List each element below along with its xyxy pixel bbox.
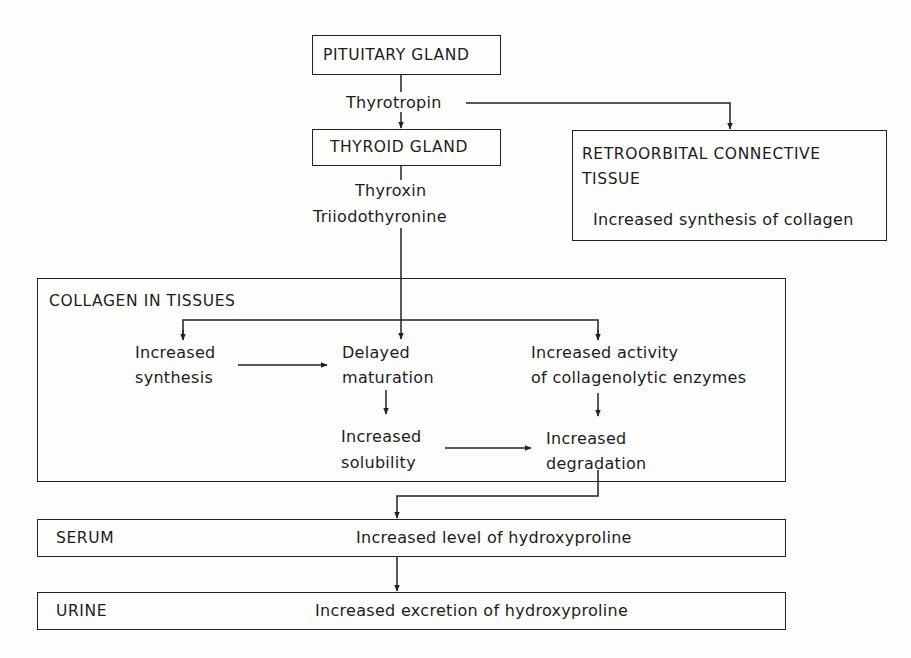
increased-degradation-line2: degradation (546, 454, 646, 474)
serum-box: SERUM Increased level of hydroxyproline (37, 519, 786, 557)
retroorbital-title-line1: RETROORBITAL CONNECTIVE (582, 144, 821, 164)
increased-solubility-line2: solubility (341, 453, 416, 473)
retroorbital-effect: Increased synthesis of collagen (593, 210, 854, 230)
retroorbital-tissue-box: RETROORBITAL CONNECTIVE TISSUE Increased… (572, 130, 887, 241)
retroorbital-title-line2: TISSUE (582, 169, 640, 189)
enzymes-activity-line2: of collagenolytic enzymes (531, 368, 746, 388)
pituitary-gland-label: PITUITARY GLAND (323, 45, 469, 65)
enzymes-activity-line1: Increased activity (531, 343, 678, 363)
triiodothyronine-label: Triiodothyronine (313, 207, 447, 227)
collagen-title: COLLAGEN IN TISSUES (49, 291, 236, 311)
delayed-maturation-line1: Delayed (342, 343, 410, 363)
serum-effect: Increased level of hydroxyproline (356, 528, 632, 548)
increased-solubility-line1: Increased (341, 427, 422, 447)
thyroid-gland-box: THYROID GLAND (312, 129, 501, 166)
urine-box: URINE Increased excretion of hydroxyprol… (37, 592, 786, 630)
thyroxin-label: Thyroxin (355, 181, 426, 201)
increased-synthesis-line1: Increased (135, 343, 216, 363)
thyroid-gland-label: THYROID GLAND (330, 137, 468, 157)
serum-label: SERUM (56, 528, 114, 548)
increased-degradation-line1: Increased (546, 429, 627, 449)
urine-effect: Increased excretion of hydroxyproline (315, 601, 628, 621)
delayed-maturation-line2: maturation (342, 368, 434, 388)
pituitary-gland-box: PITUITARY GLAND (312, 35, 501, 75)
urine-label: URINE (56, 601, 107, 621)
thyrotropin-label: Thyrotropin (346, 93, 442, 113)
increased-synthesis-line2: synthesis (135, 368, 213, 388)
